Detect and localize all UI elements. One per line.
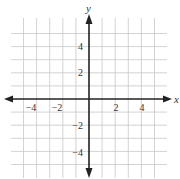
y-tick-label: −4 <box>72 147 83 158</box>
x-axis-right-arrow-icon <box>163 96 172 103</box>
coordinate-plane: x y −4 −2 2 4 4 2 −2 −4 <box>0 0 180 179</box>
y-tick-label: 2 <box>78 67 83 78</box>
x-axis-label: x <box>173 93 179 105</box>
y-tick-label: 4 <box>78 41 83 52</box>
y-axis-label: y <box>85 2 91 14</box>
x-tick-label: 4 <box>140 102 145 113</box>
y-axis <box>86 14 93 178</box>
y-axis-up-arrow-icon <box>86 14 93 24</box>
x-tick-label: −4 <box>26 102 37 113</box>
y-axis-down-arrow-icon <box>86 168 93 178</box>
x-tick-label: −2 <box>52 102 63 113</box>
x-tick-label: 2 <box>114 102 119 113</box>
x-axis-left-arrow-icon <box>4 96 13 103</box>
y-tick-label: −2 <box>72 120 83 131</box>
